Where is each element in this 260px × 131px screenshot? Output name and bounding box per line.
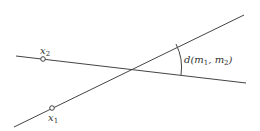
angle-arc (176, 44, 182, 75)
point-x1 (50, 106, 55, 111)
label-x2: x2 (40, 46, 50, 58)
label-x1: x1 (48, 113, 58, 125)
angle-label: d(m1, m2) (184, 55, 232, 67)
line-m1 (14, 15, 244, 127)
diagram-canvas: x2 x1 d(m1, m2) (0, 0, 260, 131)
